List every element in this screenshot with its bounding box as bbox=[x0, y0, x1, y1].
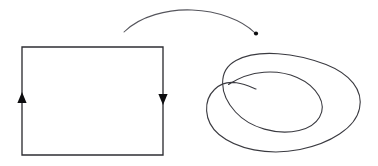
mapping-arrowhead-icon bbox=[254, 31, 258, 35]
oriented-rectangle bbox=[22, 47, 163, 155]
right-edge-arrowhead-icon bbox=[158, 94, 167, 105]
left-edge-arrowhead-icon bbox=[17, 92, 26, 103]
spiral-curve bbox=[207, 53, 361, 152]
mapping-arrow-icon bbox=[124, 10, 255, 33]
diagram-svg bbox=[0, 0, 378, 166]
diagram-canvas bbox=[0, 0, 378, 166]
